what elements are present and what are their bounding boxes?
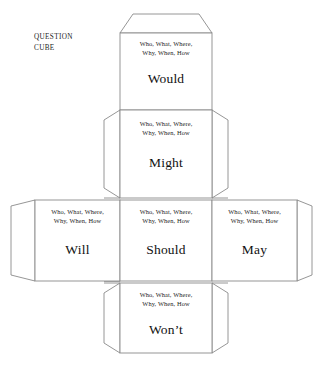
tab-will-left: [11, 200, 35, 281]
panel-may: [212, 200, 297, 281]
diagram-title-line1: QUESTION: [34, 33, 73, 41]
tab-might-left: [104, 110, 120, 198]
tab-may-right: [297, 200, 312, 281]
tab-top-flap: [120, 14, 212, 33]
cube-net-outline: [0, 0, 319, 375]
diagram-title-line2: CUBE: [34, 44, 55, 52]
question-cube-net-diagram: QUESTIONCUBE Who, What, Where, Why, When…: [0, 0, 319, 375]
tab-wont-right: [212, 283, 228, 353]
panel-should: [120, 200, 212, 281]
tab-wont-left: [104, 283, 120, 353]
panel-wont: [120, 283, 212, 353]
panel-would: [120, 33, 212, 110]
panel-might: [120, 110, 212, 198]
panel-will: [35, 200, 120, 281]
tab-might-right: [212, 110, 228, 198]
diagram-title: QUESTIONCUBE: [34, 32, 73, 53]
